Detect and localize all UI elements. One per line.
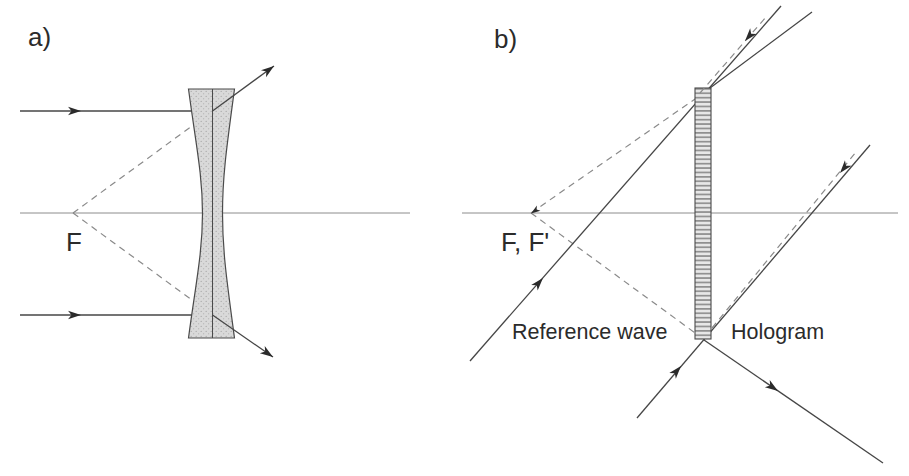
focal-point-label-a: F bbox=[66, 227, 82, 257]
arrowhead-refracted-bottom bbox=[260, 346, 276, 360]
arrowhead-diffracted-bottom bbox=[765, 380, 781, 394]
virtual-focus-dashed-top bbox=[531, 90, 708, 213]
reference-ray-upper bbox=[470, 6, 781, 361]
reference-ray-lower bbox=[637, 145, 870, 418]
conjugate-ray-dashed-bottom bbox=[712, 152, 856, 328]
optics-figure: a) F b) bbox=[0, 0, 909, 476]
panel-a: a) F bbox=[20, 22, 410, 361]
panel-a-tag: a) bbox=[28, 22, 51, 52]
reference-wave-label: Reference wave bbox=[512, 320, 667, 344]
hologram-label: Hologram bbox=[731, 320, 824, 344]
panel-b: b) F, F' Reference wave Hologram bbox=[462, 6, 898, 463]
diffracted-ray-bottom bbox=[704, 340, 883, 463]
arrowhead-refracted-top bbox=[261, 63, 277, 78]
conjugate-ray-dashed-top bbox=[700, 17, 766, 93]
panel-b-tag: b) bbox=[494, 24, 517, 54]
hologram-plate bbox=[695, 88, 711, 339]
virtual-ray-dashed-top-a bbox=[73, 111, 213, 213]
arrowhead-focus bbox=[529, 206, 540, 216]
page: { "colors": { "ink": "#2b2b2b", "ray": "… bbox=[0, 0, 909, 476]
focal-point-label-b: F, F' bbox=[501, 227, 549, 257]
virtual-ray-dashed-bottom-a bbox=[73, 213, 213, 315]
